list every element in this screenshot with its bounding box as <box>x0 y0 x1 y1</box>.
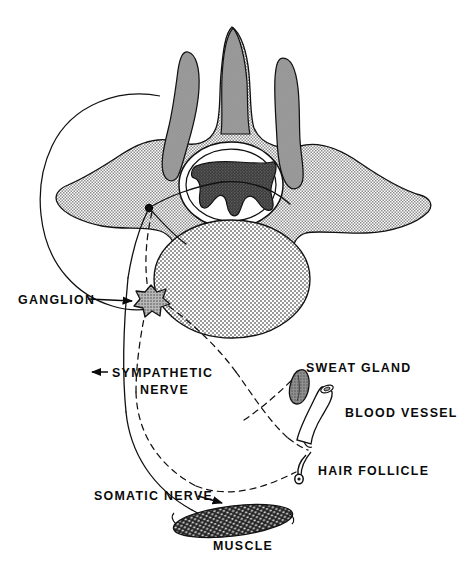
figure-canvas: GANGLION SYMPATHETIC NERVE SWEAT GLAND B… <box>0 0 465 576</box>
label-ganglion: GANGLION <box>18 293 95 307</box>
label-blood-vessel: BLOOD VESSEL <box>345 406 458 420</box>
label-muscle-text: MUSCLE <box>213 539 273 553</box>
label-muscle: MUSCLE <box>213 539 273 553</box>
label-somatic-nerve-text: SOMATIC NERVE <box>94 489 213 503</box>
label-sweat-gland: SWEAT GLAND <box>306 361 412 375</box>
label-sweat-gland-text: SWEAT GLAND <box>306 361 412 375</box>
spinal-cord-gray-matter <box>192 162 276 216</box>
label-hair-follicle: HAIR FOLLICLE <box>318 464 429 478</box>
label-blood-vessel-text: BLOOD VESSEL <box>345 406 458 420</box>
label-sympathetic-line1: SYMPATHETIC <box>112 366 213 380</box>
label-sympathetic-line2: NERVE <box>140 383 189 397</box>
anatomical-diagram: GANGLION SYMPATHETIC NERVE SWEAT GLAND B… <box>0 0 465 576</box>
label-hair-follicle-text: HAIR FOLLICLE <box>318 464 429 478</box>
label-somatic-nerve: SOMATIC NERVE <box>94 489 213 503</box>
label-ganglion-text: GANGLION <box>18 293 95 307</box>
